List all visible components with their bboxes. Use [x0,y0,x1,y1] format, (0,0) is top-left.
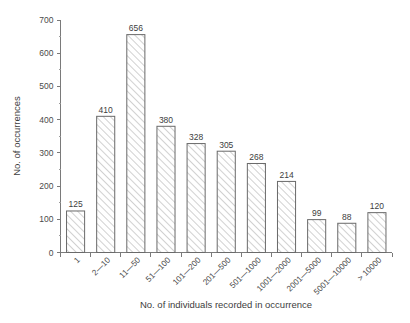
bar-value-label: 656 [129,23,143,33]
bar [157,126,175,252]
bar [277,181,295,252]
bar-value-label: 88 [342,212,352,222]
chart-svg: 0100200300400500600700 No. of occurrence… [0,0,410,323]
bar-value-label: 410 [99,105,113,115]
bar-value-label: 120 [370,201,384,211]
bar-value-label: 125 [68,199,82,209]
bar [187,144,205,253]
bar [217,151,235,252]
bar-value-label: 268 [249,152,263,162]
y-axis-title: No. of occurrences [11,96,22,176]
histogram-figure: 0100200300400500600700 No. of occurrence… [0,0,410,323]
y-tick-label: 400 [39,115,53,125]
bar [127,35,145,253]
bar [368,213,386,253]
bar [97,116,115,252]
bar [67,211,85,253]
bar-value-label: 214 [279,170,293,180]
y-tick-label: 600 [39,48,53,58]
y-tick-label: 300 [39,148,53,158]
y-tick-label: 0 [49,248,54,258]
bar-value-label: 99 [312,208,322,218]
x-axis-title: No. of individuals recorded in occurrenc… [140,299,312,310]
bar-value-label: 380 [159,115,173,125]
bar [247,163,265,252]
y-tick-label: 100 [39,214,53,224]
bar [338,223,356,252]
bar [308,220,326,253]
bar-value-label: 328 [189,132,203,142]
y-tick-label: 700 [39,15,53,25]
y-tick-label: 200 [39,181,53,191]
bar-value-label: 305 [219,140,233,150]
y-tick-label: 500 [39,81,53,91]
